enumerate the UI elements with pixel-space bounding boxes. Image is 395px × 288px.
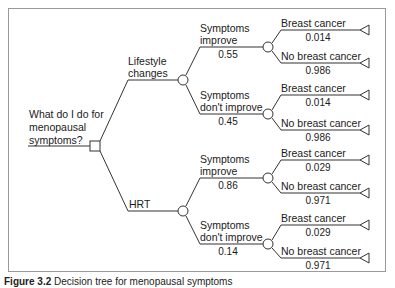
chance-node-icon xyxy=(178,75,188,85)
outcome-probability: 0.986 xyxy=(300,132,336,144)
figure-caption: Figure 3.2 Decision tree for menopausal … xyxy=(4,276,232,287)
branch-label-line2: improve xyxy=(200,34,237,46)
branch-label-line2: improve xyxy=(200,165,237,177)
branch-probability: 0.45 xyxy=(214,116,242,128)
chance-node-icon xyxy=(263,239,273,249)
branch-probability: 0.55 xyxy=(214,49,242,61)
option-lifestyle-line2: changes xyxy=(128,67,168,79)
option-hrt: HRT xyxy=(129,198,150,210)
chance-node-icon xyxy=(263,42,273,52)
outcome-label: Breast cancer xyxy=(281,147,346,159)
branch-label-line1: Symptoms xyxy=(200,22,250,34)
outcome-probability: 0.986 xyxy=(300,65,336,77)
branch-probability: 0.86 xyxy=(214,180,242,192)
outcome-label: Breast cancer xyxy=(281,82,346,94)
branch-label-line1: Symptoms xyxy=(200,153,250,165)
branch-label-line1: Symptoms xyxy=(200,219,250,231)
decision-node-icon xyxy=(90,141,100,151)
branch-label-line2: don't improve xyxy=(200,101,263,113)
caption-prefix: Figure 3.2 xyxy=(4,276,51,287)
outcome-label: No breast cancer xyxy=(281,50,361,62)
branch-label-line2: don't improve xyxy=(200,231,263,243)
chance-node-icon xyxy=(263,109,273,119)
chance-node-icon xyxy=(263,173,273,183)
caption-text: Decision tree for menopausal symptoms xyxy=(54,276,232,287)
outcome-label: No breast cancer xyxy=(281,245,361,257)
question-line3: symptoms? xyxy=(29,134,83,146)
outcome-label: No breast cancer xyxy=(281,180,361,192)
outcome-label: Breast cancer xyxy=(281,17,346,29)
branch-probability: 0.14 xyxy=(214,246,242,258)
outcome-probability: 0.029 xyxy=(300,162,336,174)
outcome-probability: 0.971 xyxy=(300,195,336,207)
branch-label-line1: Symptoms xyxy=(200,89,250,101)
question-line2: menopausal xyxy=(29,121,86,133)
question-line1: What do I do for xyxy=(29,108,104,120)
outcome-probability: 0.971 xyxy=(300,260,336,272)
outcome-probability: 0.014 xyxy=(300,97,336,109)
chance-node-icon xyxy=(178,206,188,216)
outcome-probability: 0.014 xyxy=(300,32,336,44)
outcome-label: Breast cancer xyxy=(281,212,346,224)
outcome-probability: 0.029 xyxy=(300,227,336,239)
option-lifestyle-line1: Lifestyle xyxy=(128,55,167,67)
outcome-label: No breast cancer xyxy=(281,117,361,129)
